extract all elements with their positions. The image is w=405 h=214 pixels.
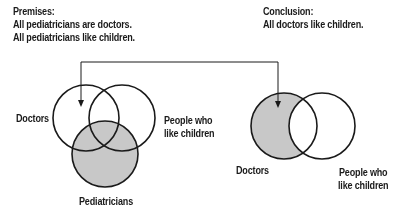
- label-doctors-right: Doctors: [236, 164, 269, 177]
- left-pediatricians-shading: [53, 85, 155, 151]
- premise-1: All pediatricians are doctors.: [13, 18, 132, 31]
- premises-heading: Premises:: [13, 5, 55, 18]
- label-people-right-2: like children: [338, 179, 388, 192]
- label-people-right-1: People who: [339, 166, 387, 179]
- label-doctors-left: Doctors: [16, 112, 49, 125]
- label-pediatricians: Pediatricians: [79, 195, 133, 208]
- conclusion-text: All doctors like children.: [263, 18, 363, 31]
- arrowhead-left-icon: [78, 100, 84, 107]
- conclusion-heading: Conclusion:: [263, 5, 313, 18]
- connector-arrow: [81, 62, 278, 104]
- premise-2: All pediatricians like children.: [13, 31, 135, 44]
- label-people-left-1: People who: [164, 114, 212, 127]
- label-people-left-2: like children: [164, 127, 214, 140]
